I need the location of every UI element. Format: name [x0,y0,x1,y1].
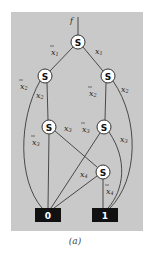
label-x2-neg-right: x2 [89,89,97,98]
root-label: f [69,16,75,25]
node-n2L: S [38,69,52,83]
node-n3R: S [97,120,111,134]
node-n3L: S [42,120,56,134]
label-x3-right: x3 [120,135,128,144]
label-x4: x4 [80,170,88,179]
label-x3-left: x3 [64,124,72,133]
edge-n3L-n4 [55,131,97,167]
terminal-1: 1 [92,208,118,222]
label-x2-neg-left: x2 [20,82,28,91]
edge-n2R-n3R [105,83,106,120]
edge-n2R-t1 [110,81,132,208]
edge-n2L-n3L [47,83,48,120]
label-x3-neg-right: x3 [82,125,90,134]
terminal-0: 0 [35,208,61,222]
edge-n4-t0 [54,176,97,208]
node-n4-label: S [100,168,106,178]
label-x4-neg: x4 [106,187,114,196]
terminal-1-label: 1 [102,211,108,221]
decision-diagram: f x1 x1 x2 x2 x2 x2 x3 x3 x3 x3 x4 x4 [0,0,150,261]
node-n4: S [96,165,110,179]
node-n3L-label: S [46,123,52,133]
node-n2L-label: S [42,72,48,82]
label-x3-neg-left: x3 [32,138,40,147]
node-n3R-label: S [101,123,107,133]
label-x1: x1 [95,47,103,56]
label-x1-neg: x1 [51,48,59,57]
edge-n3L-t0 [48,134,49,208]
node-n1-label: S [75,38,81,48]
node-n2R-label: S [105,72,111,82]
terminal-0-label: 0 [45,211,51,221]
label-x2-right: x2 [121,85,129,94]
node-n1: S [71,35,85,49]
node-n2R: S [101,69,115,83]
figure-caption: (a) [0,236,150,246]
edge-n3R-t0 [51,133,100,208]
label-x2-left: x2 [36,91,44,100]
